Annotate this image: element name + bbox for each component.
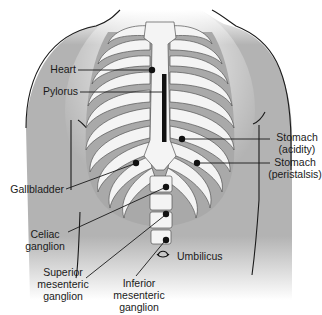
pylorus-marker-bar (162, 74, 167, 142)
label-inferior-mesenteric-ganglion: Inferior mesenteric ganglion (106, 277, 172, 313)
gallbladder-marker (133, 160, 139, 166)
stomach-peristalsis-marker (194, 160, 200, 166)
label-superior-mesenteric-ganglion: Superior mesenteric ganglion (30, 266, 96, 302)
label-stomach-peristalsis-line1: Stomach (266, 156, 322, 168)
celiac-marker (163, 184, 169, 190)
label-stomach-acidity-line2: (acidity) (272, 143, 322, 155)
label-inferior-line1: Inferior (106, 277, 172, 289)
label-stomach-acidity-line1: Stomach (272, 131, 322, 143)
label-pylorus: Pylorus (20, 85, 78, 97)
label-heart: Heart (30, 63, 76, 75)
label-stomach-peristalsis: Stomach (peristalsis) (266, 156, 322, 180)
label-superior-line2: mesenteric (30, 278, 96, 290)
label-stomach-acidity: Stomach (acidity) (272, 131, 322, 155)
label-celiac-line1: Celiac (20, 228, 70, 240)
label-celiac-ganglion: Celiac ganglion (20, 228, 70, 252)
label-superior-line1: Superior (30, 266, 96, 278)
label-inferior-line2: mesenteric (106, 289, 172, 301)
label-superior-line3: ganglion (30, 290, 96, 302)
label-stomach-peristalsis-line2: (peristalsis) (266, 168, 322, 180)
stomach-acidity-marker (179, 136, 185, 142)
label-inferior-line3: ganglion (106, 301, 172, 313)
label-gallbladder: Gallbladder (0, 183, 64, 195)
label-celiac-line2: ganglion (20, 240, 70, 252)
label-umbilicus: Umbilicus (177, 250, 223, 262)
